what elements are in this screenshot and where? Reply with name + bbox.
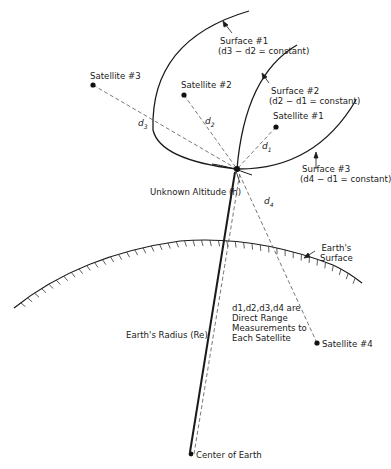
satellite-4-label: Satellite #4 (322, 339, 373, 349)
range-line-d3 (93, 85, 237, 169)
surface-1-label: Surface #1 (d3 − d2 = constant) (218, 36, 309, 56)
d4-label: d4 (264, 196, 274, 208)
range-measurements-note: d1,d2,d3,d4 are Direct Range Measurement… (232, 303, 307, 343)
earths-surface-label: Earth's Surface (320, 243, 353, 263)
earth-radius-line (190, 172, 235, 452)
earths-radius-label: Earth's Radius (Re) (126, 330, 208, 340)
d1-label: d1 (262, 141, 272, 153)
satellite-3-dot (90, 82, 95, 87)
center-of-earth-label: Center of Earth (196, 450, 262, 460)
d2-label: d2 (205, 116, 215, 128)
satellite-2-label: Satellite #2 (181, 80, 232, 90)
earth-surface-arc (14, 240, 362, 308)
d3-label: d3 (138, 118, 148, 130)
surface-3-label: Surface #3 (d4 − d1 = constant) (300, 164, 391, 184)
center-of-earth-dot (189, 452, 194, 457)
unknown-altitude-label: Unknown Altitude (h) (150, 187, 241, 197)
range-line-d2 (184, 95, 237, 169)
surface-2-label: Surface #2 (d2 − d1 = constant) (269, 86, 360, 106)
satellite-1-dot (273, 124, 278, 129)
surface-1-curve (153, 11, 249, 169)
satellite-1-label: Satellite #1 (273, 111, 324, 121)
satellite-4-dot (314, 340, 319, 345)
receiver-point (234, 166, 240, 172)
satellite-3-label: Satellite #3 (90, 71, 141, 81)
satellite-2-dot (181, 92, 186, 97)
